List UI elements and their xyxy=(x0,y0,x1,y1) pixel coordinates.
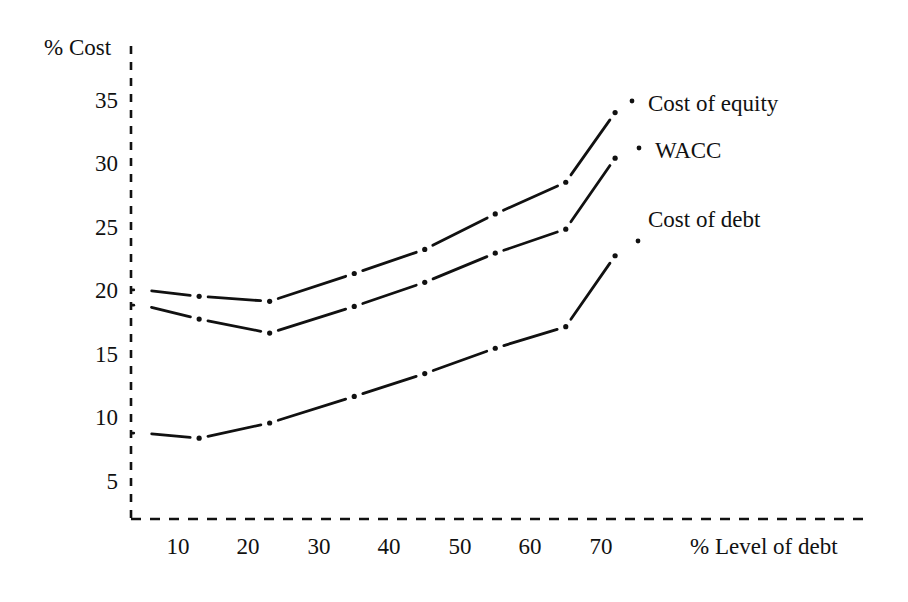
x-tick-label-50: 50 xyxy=(430,535,490,558)
series-label-dot xyxy=(637,146,642,151)
y-tick-label-10: 10 xyxy=(58,406,118,429)
x-tick-label-20: 20 xyxy=(218,535,278,558)
series-line-segment xyxy=(208,297,261,301)
series-data-point xyxy=(422,371,427,376)
series-line-segment xyxy=(208,425,261,436)
series-data-point xyxy=(563,324,568,329)
series-line-segment xyxy=(363,252,416,270)
series-line-segment xyxy=(504,232,557,250)
series-line-segment xyxy=(278,276,346,298)
series-data-point xyxy=(352,394,357,399)
series-line-segment xyxy=(571,263,610,319)
series-label-dot xyxy=(630,99,635,104)
x-tick-label-30: 30 xyxy=(289,535,349,558)
series-data-point xyxy=(352,271,357,276)
y-tick-label-25: 25 xyxy=(58,216,118,239)
series-label-cost-of-debt: Cost of debt xyxy=(648,208,760,231)
series-data-point xyxy=(422,280,427,285)
series-line-segment xyxy=(363,376,416,393)
series-line-segment xyxy=(152,291,191,295)
series-data-point xyxy=(352,304,357,309)
series-label-wacc: WACC xyxy=(655,139,721,162)
series-line-segment xyxy=(571,120,610,175)
series-data-point xyxy=(267,299,272,304)
series-line-segment xyxy=(363,285,416,303)
series-data-point xyxy=(493,251,498,256)
x-axis-title: % Level of debt xyxy=(690,535,838,558)
x-tick-label-70: 70 xyxy=(571,535,631,558)
series-line-segment xyxy=(208,321,261,331)
y-tick-label-20: 20 xyxy=(58,279,118,302)
y-tick-label-30: 30 xyxy=(58,152,118,175)
series-data-point xyxy=(197,294,202,299)
y-tick-label-5: 5 xyxy=(58,470,118,493)
series-data-point xyxy=(493,346,498,351)
series-data-point xyxy=(613,110,618,115)
series-data-point xyxy=(267,420,272,425)
series-line-segment xyxy=(433,257,487,279)
series-data-point xyxy=(493,211,498,216)
series-label-cost-of-equity: Cost of equity xyxy=(648,92,778,115)
series-data-point xyxy=(613,253,618,258)
series-data-point xyxy=(613,156,618,161)
x-tick-label-60: 60 xyxy=(500,535,560,558)
series-line-segment xyxy=(571,166,610,222)
series-data-point xyxy=(267,330,272,335)
series-line-segment xyxy=(278,399,345,420)
series-data-point xyxy=(563,180,568,185)
series-line-segment xyxy=(433,351,487,370)
series-line-segment xyxy=(504,329,557,345)
series-label-dot xyxy=(636,239,641,244)
series-data-point xyxy=(197,316,202,321)
y-tick-label-15: 15 xyxy=(58,343,118,366)
y-tick-label-35: 35 xyxy=(58,89,118,112)
x-tick-label-10: 10 xyxy=(148,535,208,558)
series-line-segment xyxy=(151,307,190,317)
series-line-segment xyxy=(152,434,190,437)
series-line-segment xyxy=(433,218,487,245)
series-group xyxy=(132,99,641,441)
y-axis-title: % Cost xyxy=(44,36,111,59)
series-data-point xyxy=(563,227,568,232)
series-line-segment xyxy=(503,186,557,210)
x-tick-label-40: 40 xyxy=(359,535,419,558)
chart-container: % Cost 35 30 25 20 15 10 5 10 20 30 40 5… xyxy=(0,0,908,602)
series-data-point xyxy=(422,247,427,252)
series-line-segment xyxy=(278,309,345,330)
series-data-point xyxy=(197,436,202,441)
